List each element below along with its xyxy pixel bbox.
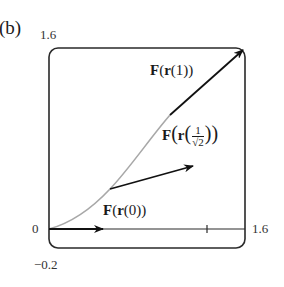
y-zero-label: 0 [32,222,39,235]
vector-label-1-r: r [164,62,171,78]
vector-label-mid-r: r [178,127,185,143]
y-bottom-label: −0.2 [34,258,58,271]
vector-label-1: F(r(1)) [150,63,193,78]
plot-canvas [0,0,284,287]
vector-label-mid-fraction: 1√2 [192,125,204,149]
vector-label-mid: F(r(1√2)) [162,123,218,149]
y-top-label: 1.6 [40,28,56,41]
vector-label-0-arg: 0 [129,202,137,218]
vector-label-0-F: F [103,202,112,218]
vector-label-0-r: r [117,202,124,218]
vector-arrow-mid [110,166,193,189]
vector-label-mid-F: F [162,127,171,143]
vector-label-0: F(r(0)) [103,203,146,218]
vector-arrow-1 [170,50,243,115]
fraction-denominator: √2 [192,137,204,149]
vector-label-1-F: F [150,62,159,78]
panel-label: (b) [0,18,21,37]
vector-label-1-arg: 1 [176,62,184,78]
x-right-label: 1.6 [252,222,268,235]
